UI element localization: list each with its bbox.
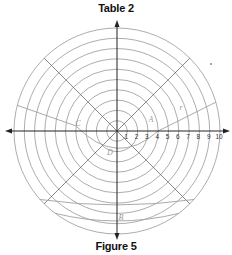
tick-label-8: 8 — [197, 133, 201, 140]
arrow-left-icon — [5, 129, 12, 134]
tick-label-10: 10 — [215, 133, 223, 140]
tick-labels: 12345678910 — [124, 133, 223, 140]
point-label-c: C — [75, 119, 81, 128]
figure-caption: Figure 5 — [0, 240, 232, 252]
arrow-up-icon — [115, 20, 120, 27]
point-label-b: B — [119, 213, 124, 222]
tick-label-6: 6 — [176, 133, 180, 140]
tick-label-5: 5 — [166, 133, 170, 140]
tick-label-1: 1 — [124, 133, 128, 140]
arrow-down-icon — [115, 233, 120, 240]
point-label-a: A — [148, 115, 154, 124]
arrow-right-icon — [223, 129, 230, 134]
tick-label-7: 7 — [186, 133, 190, 140]
polar-grid-plot: 12345678910 ACDBr — [0, 0, 232, 255]
tick-label-2: 2 — [135, 133, 139, 140]
point-label-r: r — [179, 103, 183, 112]
tick-label-3: 3 — [145, 133, 149, 140]
tick-label-4: 4 — [155, 133, 159, 140]
point-label-d: D — [106, 148, 113, 157]
axes — [5, 20, 230, 240]
stray-dot — [210, 63, 212, 65]
tick-label-9: 9 — [207, 133, 211, 140]
